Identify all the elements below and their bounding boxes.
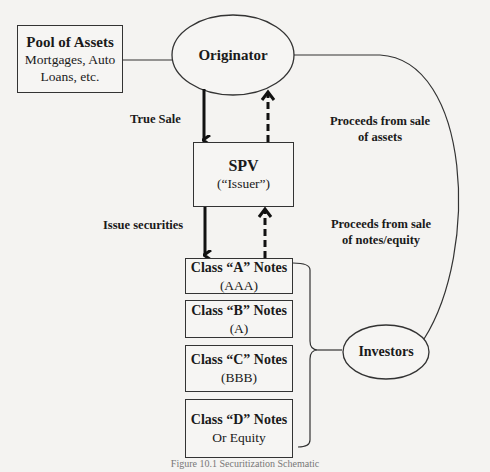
class-b-sub: (A)	[230, 320, 249, 337]
investors-label: Investors	[343, 340, 429, 364]
originator-investors-curve	[294, 55, 459, 339]
class-a-title: Class “A” Notes	[191, 259, 287, 277]
spv-sub: (“Issuer”)	[217, 175, 270, 192]
pool-line1: Mortgages, Auto	[25, 51, 116, 68]
true-sale-label: True Sale	[130, 111, 181, 127]
proceeds-assets-line1: Proceeds from sale	[305, 113, 455, 129]
originator-label: Originator	[172, 40, 294, 70]
proceeds-notes-line1: Proceeds from sale	[306, 216, 456, 232]
class-a-box: Class “A” Notes (AAA)	[185, 258, 293, 294]
class-c-sub: (BBB)	[221, 369, 257, 386]
issue-securities-label: Issue securities	[103, 217, 183, 233]
class-b-title: Class “B” Notes	[191, 302, 287, 320]
spv-box: SPV (“Issuer”)	[193, 142, 294, 207]
pool-line2: Loans, etc.	[41, 68, 100, 85]
proceeds-notes-line2: of notes/equity	[306, 232, 456, 248]
class-d-sub: Or Equity	[212, 429, 266, 446]
class-c-title: Class “C” Notes	[191, 351, 287, 369]
investor-bracket	[293, 263, 318, 447]
spv-title: SPV	[228, 157, 258, 175]
class-d-title: Class “D” Notes	[191, 411, 287, 429]
figure-caption: Figure 10.1 Securitization Schematic	[0, 458, 490, 469]
proceeds-assets-label: Proceeds from sale of assets	[305, 113, 455, 145]
pool-of-assets-box: Pool of Assets Mortgages, Auto Loans, et…	[17, 25, 123, 93]
proceeds-notes-label: Proceeds from sale of notes/equity	[306, 216, 456, 248]
class-a-sub: (AAA)	[220, 277, 258, 294]
class-c-box: Class “C” Notes (BBB)	[185, 345, 293, 392]
pool-title: Pool of Assets	[26, 33, 114, 51]
proceeds-assets-line2: of assets	[305, 129, 455, 145]
class-d-box: Class “D” Notes Or Equity	[185, 399, 293, 458]
class-b-box: Class “B” Notes (A)	[185, 300, 293, 338]
